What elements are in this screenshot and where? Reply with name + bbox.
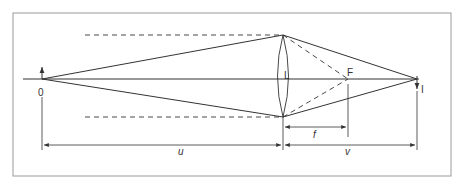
image-label: I: [421, 84, 424, 95]
ray-lens-to-image-bottom: [283, 79, 417, 117]
focal-length-label: f: [313, 129, 317, 140]
lens-ray-diagram: 0 L F I f u v: [0, 0, 460, 186]
diagram-frame: [13, 13, 451, 176]
dashed-ray-bottom-through-focus: [283, 79, 348, 117]
ray-object-to-lens-bottom: [42, 79, 283, 117]
ray-object-to-lens-top: [42, 35, 283, 79]
object-label: 0: [38, 87, 44, 98]
lens-label: L: [284, 70, 290, 81]
object-distance-label: u: [178, 146, 184, 157]
image-distance-label: v: [345, 146, 351, 157]
focus-label: F: [347, 67, 353, 78]
dashed-ray-top-through-focus: [283, 35, 348, 79]
